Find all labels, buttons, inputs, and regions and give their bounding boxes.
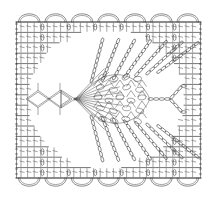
double-crochet-bar <box>192 36 196 37</box>
double-crochet-bar <box>192 26 196 27</box>
double-crochet-bar <box>53 36 57 37</box>
top-scallop-arch-inner <box>126 15 144 22</box>
chain-oval <box>131 38 136 44</box>
double-crochet-bar <box>185 130 189 131</box>
double-crochet-bar <box>40 57 44 58</box>
double-crochet-bar <box>33 161 37 162</box>
double-crochet-bar <box>192 68 196 69</box>
double-crochet-bar <box>159 26 163 27</box>
double-crochet-bar <box>60 161 64 162</box>
double-crochet-bar <box>165 36 169 37</box>
chain-oval <box>194 41 200 46</box>
double-crochet-bar <box>27 88 31 89</box>
chain-oval <box>95 57 99 63</box>
double-crochet-bar <box>20 57 24 58</box>
motif-net-line <box>138 112 143 119</box>
motif-net-line <box>98 101 103 108</box>
chain-oval <box>160 127 166 133</box>
double-crochet-bar <box>126 26 130 27</box>
double-crochet-bar <box>66 26 70 27</box>
double-crochet-bar <box>53 151 57 152</box>
double-crochet-bar <box>126 172 130 173</box>
double-crochet-bar <box>192 172 196 173</box>
double-crochet-bar <box>106 26 110 27</box>
double-crochet-bar <box>185 78 189 79</box>
bottom-scallop-arch-inner <box>126 178 144 185</box>
double-crochet-bar <box>46 47 50 48</box>
chain-oval <box>141 63 147 69</box>
motif-net-line <box>131 80 136 87</box>
double-crochet-bar <box>46 161 50 162</box>
double-crochet-bar <box>192 88 196 89</box>
chain-oval-vertical <box>41 159 44 165</box>
double-crochet-bar <box>66 36 70 37</box>
motif-net-line <box>138 101 143 108</box>
chain-oval-vertical <box>94 170 97 176</box>
chain-oval-vertical <box>147 170 150 176</box>
motif-net-line <box>127 112 132 119</box>
top-scallop-arch-inner <box>47 15 65 22</box>
bottom-scallop-arch-inner <box>99 178 117 185</box>
double-crochet-bar <box>165 151 169 152</box>
tail-chain-lower <box>177 107 183 113</box>
double-crochet-bar <box>178 161 182 162</box>
double-crochet-bar <box>20 151 24 152</box>
double-crochet-bar <box>20 99 24 100</box>
double-crochet-bar <box>20 26 24 27</box>
double-crochet-bar <box>165 26 169 27</box>
double-crochet-bar <box>152 36 156 37</box>
chain-oval-vertical <box>41 45 44 51</box>
double-crochet-bar <box>145 161 149 162</box>
double-crochet-bar <box>20 109 24 110</box>
double-crochet-bar <box>185 172 189 173</box>
double-crochet-bar <box>53 26 57 27</box>
chain-oval <box>99 42 103 48</box>
double-crochet-bar <box>132 172 136 173</box>
tail-chain <box>164 98 170 101</box>
double-crochet-bar <box>185 26 189 27</box>
tail-chain <box>148 98 154 101</box>
diamond-motif <box>48 90 72 107</box>
chain-oval <box>129 64 134 70</box>
double-crochet-bar <box>178 26 182 27</box>
double-crochet-bar <box>159 172 163 173</box>
top-scallop-border <box>16 14 201 22</box>
double-crochet-bar <box>192 140 196 141</box>
chain-oval <box>148 56 154 62</box>
double-crochet-bar <box>192 78 196 79</box>
chain-oval <box>185 47 191 52</box>
double-crochet-bar <box>33 130 37 131</box>
chain-oval <box>98 47 102 53</box>
double-crochet-bar <box>20 161 24 162</box>
chain-oval-vertical <box>94 24 97 30</box>
motif-chain-oval <box>105 98 114 104</box>
chain-oval <box>152 52 158 58</box>
diamond-motif <box>26 90 50 107</box>
motif-chain-oval <box>133 76 142 82</box>
bottom-scallop-arch-inner <box>47 178 65 185</box>
radiating-chain-loops <box>90 37 200 162</box>
double-crochet-bar <box>60 172 64 173</box>
double-crochet-bar <box>20 140 24 141</box>
chain-oval <box>91 120 95 126</box>
motif-net-line <box>116 91 121 98</box>
top-scallop-arch-inner <box>20 15 38 22</box>
motif-chain-oval <box>109 87 117 92</box>
double-crochet-bar <box>119 26 123 27</box>
chain-oval-vertical <box>41 170 44 176</box>
left-diamond-motifs <box>26 83 72 114</box>
double-crochet-bar <box>172 161 176 162</box>
chain-oval-vertical <box>41 149 44 155</box>
chain-oval <box>155 48 161 54</box>
double-crochet-bar <box>192 161 196 162</box>
motif-net-line <box>105 101 110 108</box>
top-scallop-arch-inner <box>152 15 170 22</box>
double-crochet-bar <box>27 151 31 152</box>
double-crochet-bar <box>60 36 64 37</box>
bottom-scallop-arch-inner <box>73 178 91 185</box>
double-crochet-bar <box>185 99 189 100</box>
double-crochet-bar <box>66 161 70 162</box>
double-crochet-bar <box>27 161 31 162</box>
chain-oval <box>96 141 100 147</box>
double-crochet-bar <box>172 172 176 173</box>
